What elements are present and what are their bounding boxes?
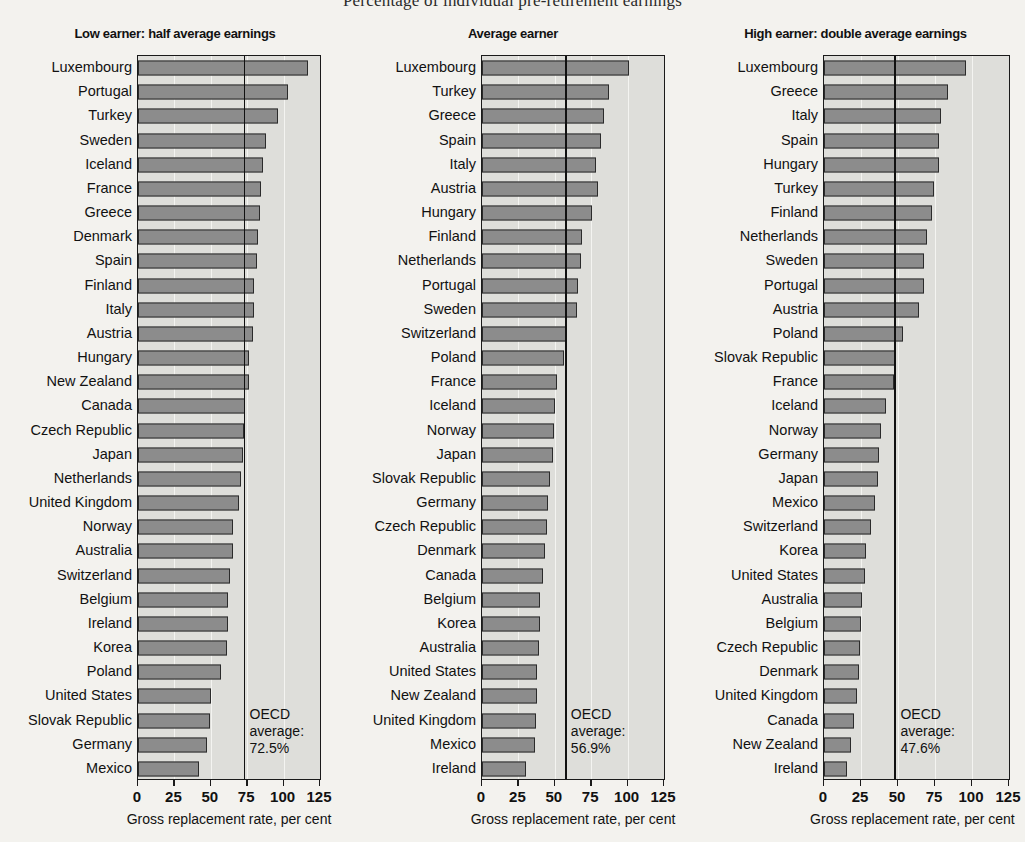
category-label: Switzerland xyxy=(743,519,818,534)
bar xyxy=(482,616,540,631)
bar xyxy=(138,592,228,607)
category-label: Mexico xyxy=(430,737,476,752)
bar xyxy=(482,665,537,680)
axis-title-low-earner: Gross replacement rate, per cent xyxy=(127,811,332,827)
axis-tick-label: 100 xyxy=(270,788,295,805)
bar xyxy=(138,471,241,486)
panel-high-earner: High earner: double average earnings Lux… xyxy=(680,26,1025,842)
page-title: Percentage of individual pre-retirement … xyxy=(0,0,1025,11)
bar xyxy=(138,109,278,124)
category-label: Iceland xyxy=(85,157,132,172)
bar xyxy=(138,616,228,631)
category-label: Korea xyxy=(93,640,132,655)
bar xyxy=(824,496,875,511)
axis-tick xyxy=(173,780,174,786)
bar xyxy=(824,544,866,559)
bar xyxy=(482,181,598,196)
category-label: Luxembourg xyxy=(51,60,132,75)
category-label: Japan xyxy=(778,471,818,486)
bar xyxy=(482,375,557,390)
bar xyxy=(482,278,578,293)
bar xyxy=(138,544,233,559)
bar xyxy=(824,326,903,341)
category-label: Luxembourg xyxy=(395,60,476,75)
bar xyxy=(138,496,239,511)
category-label: Belgium xyxy=(766,616,818,631)
category-label: Denmark xyxy=(417,543,476,558)
bar xyxy=(824,713,854,728)
category-label: Ireland xyxy=(774,761,818,776)
category-label: Sweden xyxy=(766,253,818,268)
axis-tick-label: 75 xyxy=(926,788,943,805)
category-label: Greece xyxy=(84,205,132,220)
category-label: United States xyxy=(389,664,476,679)
panel-title-high-earner: High earner: double average earnings xyxy=(680,26,1025,41)
axis-tick xyxy=(319,780,320,786)
oecd-average-line xyxy=(565,56,567,779)
bar xyxy=(482,447,553,462)
category-label: New Zealand xyxy=(733,737,818,752)
bar xyxy=(138,85,288,100)
bar xyxy=(482,592,540,607)
category-label: Portugal xyxy=(78,84,132,99)
category-label: Denmark xyxy=(759,664,818,679)
bar xyxy=(824,761,847,776)
category-label: Slovak Republic xyxy=(28,712,132,727)
category-label: France xyxy=(87,181,132,196)
axis-title-high-earner: Gross replacement rate, per cent xyxy=(810,811,1015,827)
bar xyxy=(824,520,871,535)
category-label: Turkey xyxy=(432,84,476,99)
category-label: Poland xyxy=(87,664,132,679)
category-label: Belgium xyxy=(424,592,476,607)
bar xyxy=(138,61,308,76)
bar xyxy=(482,109,604,124)
axis-tick xyxy=(554,780,555,786)
category-labels-high-earner: LuxembourgGreeceItalySpainHungaryTurkeyF… xyxy=(680,55,823,780)
oecd-average-note: OECD average: 47.6% xyxy=(900,706,954,757)
bar xyxy=(482,85,609,100)
bar xyxy=(824,109,941,124)
category-label: Czech Republic xyxy=(374,519,476,534)
bar xyxy=(138,375,249,390)
x-axis-average-earner: Gross replacement rate, per cent 0255075… xyxy=(481,780,665,842)
axis-tick-label: 25 xyxy=(852,788,869,805)
bar xyxy=(482,713,536,728)
axis-tick-label: 75 xyxy=(582,788,599,805)
bar xyxy=(824,206,932,221)
category-label: Korea xyxy=(779,543,818,558)
bar xyxy=(138,399,245,414)
gridline xyxy=(628,56,629,779)
bar xyxy=(482,568,543,583)
bar xyxy=(482,641,539,656)
category-label: Spain xyxy=(439,132,476,147)
category-label: Hungary xyxy=(77,350,132,365)
bar xyxy=(824,254,924,269)
bar xyxy=(138,568,230,583)
bar xyxy=(482,520,547,535)
category-label: Switzerland xyxy=(57,567,132,582)
axis-tick xyxy=(137,780,138,786)
category-label: Turkey xyxy=(774,181,818,196)
category-label: Canada xyxy=(425,567,476,582)
axis-tick xyxy=(897,780,898,786)
panel-low-earner: Low earner: half average earnings Luxemb… xyxy=(0,26,340,842)
category-label: Netherlands xyxy=(398,253,476,268)
category-label: Czech Republic xyxy=(716,640,818,655)
bar xyxy=(482,133,601,148)
axis-tick xyxy=(590,780,591,786)
panel-title-low-earner: Low earner: half average earnings xyxy=(0,26,340,41)
rows-high-earner: LuxembourgGreeceItalySpainHungaryTurkeyF… xyxy=(680,55,1025,780)
bar xyxy=(824,568,865,583)
category-label: Iceland xyxy=(429,398,476,413)
category-label: Mexico xyxy=(86,761,132,776)
bar xyxy=(138,665,221,680)
oecd-average-note: OECD average: 56.9% xyxy=(571,706,625,757)
category-label: Australia xyxy=(420,640,476,655)
axis-tick xyxy=(934,780,935,786)
bar xyxy=(824,399,886,414)
axis-tick-label: 50 xyxy=(201,788,218,805)
category-label: Greece xyxy=(770,84,818,99)
bar xyxy=(824,133,939,148)
gridline xyxy=(1009,56,1010,779)
bar xyxy=(482,544,545,559)
